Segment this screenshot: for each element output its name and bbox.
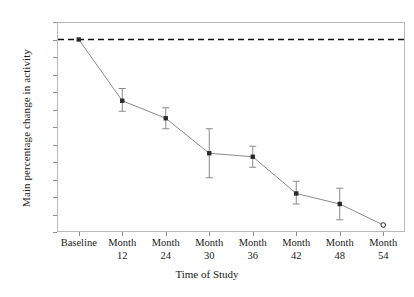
- series-line: [79, 40, 384, 226]
- data-point-marker: [381, 223, 386, 228]
- data-point-marker: [77, 37, 81, 41]
- data-point-marker: [251, 155, 255, 159]
- chart-canvas: [0, 0, 414, 297]
- data-point-marker: [294, 191, 298, 195]
- figure: Main percentage change in activity 50−5−…: [0, 0, 414, 297]
- data-point-marker: [207, 151, 211, 155]
- x-axis-title: Time of Study: [0, 268, 414, 280]
- data-point-marker: [338, 202, 342, 206]
- data-point-marker: [120, 99, 124, 103]
- data-point-marker: [164, 116, 168, 120]
